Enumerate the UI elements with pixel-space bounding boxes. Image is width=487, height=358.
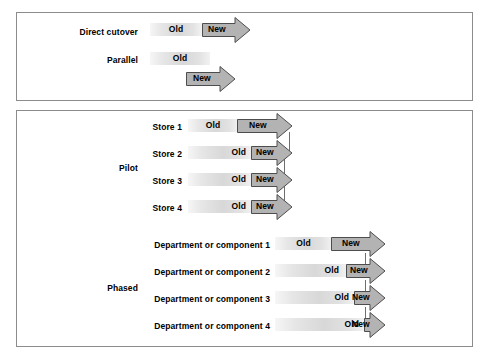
- new-arrow-department-2: New: [346, 258, 386, 284]
- new-arrow-department-4: New: [364, 312, 386, 338]
- new-arrow-store-4: New: [251, 194, 293, 220]
- new-label: New: [342, 238, 360, 249]
- row-label-store-4: Store 4: [118, 203, 182, 213]
- old-bar-store-2: Old: [188, 146, 252, 159]
- group-label-parallel: Parallel: [38, 55, 138, 65]
- group-label-phased: Phased: [60, 283, 138, 293]
- new-arrow-direct-cutover: New: [202, 17, 251, 43]
- old-label: Old: [232, 174, 246, 185]
- new-label: New: [352, 292, 370, 303]
- new-label: New: [256, 201, 274, 212]
- new-label: New: [350, 265, 368, 276]
- row-label-store-2: Store 2: [118, 149, 182, 159]
- new-label: New: [256, 147, 274, 158]
- group-label-direct-cutover: Direct cutover: [38, 27, 138, 37]
- new-arrow-department-3: New: [354, 285, 386, 311]
- row-label-department-3: Department or component 3: [143, 294, 270, 304]
- row-label-store-1: Store 1: [118, 122, 182, 132]
- old-label: Old: [169, 24, 183, 35]
- new-label: New: [352, 319, 370, 330]
- old-label: Old: [206, 120, 220, 131]
- new-arrow-store-3: New: [251, 167, 293, 193]
- old-label: Old: [296, 238, 310, 249]
- old-bar-direct-cutover: Old: [150, 23, 202, 36]
- row-label-store-3: Store 3: [118, 176, 182, 186]
- old-bar-department-1: Old: [275, 237, 332, 250]
- row-label-department-4: Department or component 4: [143, 321, 270, 331]
- row-label-department-2: Department or component 2: [143, 267, 270, 277]
- old-bar-parallel: Old: [150, 52, 210, 65]
- old-bar-store-3: Old: [188, 173, 252, 186]
- old-bar-department-3: Old: [275, 291, 355, 304]
- old-bar-store-4: Old: [188, 200, 252, 213]
- new-arrow-department-1: New: [331, 231, 386, 257]
- new-label: New: [256, 174, 274, 185]
- new-arrow-store-2: New: [251, 140, 293, 166]
- new-label: New: [249, 120, 267, 131]
- row-label-department-1: Department or component 1: [143, 240, 270, 250]
- new-arrow-parallel: New: [186, 66, 236, 92]
- old-label: Old: [335, 292, 349, 303]
- old-bar-store-1: Old: [188, 119, 238, 132]
- old-bar-department-2: Old: [275, 264, 347, 277]
- new-label: New: [193, 73, 211, 84]
- changeover-strategies-diagram: Direct cutover Old New Parallel Old New …: [0, 0, 487, 358]
- new-label: New: [208, 24, 226, 35]
- old-label: Old: [232, 147, 246, 158]
- group-label-pilot: Pilot: [60, 163, 138, 173]
- old-label: Old: [173, 53, 187, 64]
- old-label: Old: [325, 265, 339, 276]
- new-arrow-store-1: New: [237, 113, 293, 139]
- old-label: Old: [232, 201, 246, 212]
